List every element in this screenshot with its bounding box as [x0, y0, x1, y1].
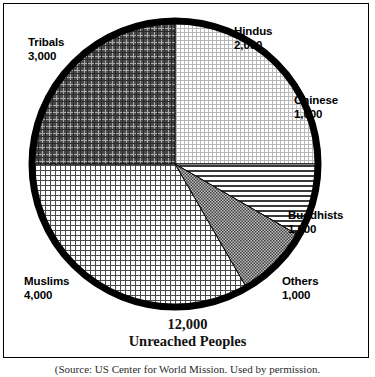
figure-source-caption: (Source: US Center for World Mission. Us… — [0, 363, 375, 377]
slice-label-chinese: Chinese 1,000 — [294, 94, 338, 121]
slice-label-chinese-value: 1,000 — [294, 108, 338, 122]
slice-label-buddhists-name: Buddhists — [288, 209, 343, 221]
slice-label-tribals: Tribals 3,000 — [28, 36, 64, 63]
slice-label-chinese-name: Chinese — [294, 94, 338, 106]
slice-label-buddhists: Buddhists 1,000 — [288, 209, 343, 236]
chart-title: Unreached Peoples — [0, 333, 375, 350]
slice-label-buddhists-value: 1,000 — [288, 223, 343, 237]
slice-label-muslims-value: 4,000 — [24, 289, 69, 303]
slice-label-hindus: Hindus 2,000 — [234, 25, 272, 52]
slice-label-others-value: 1,000 — [282, 289, 318, 303]
pie-chart-figure: Hindus 2,000 Chinese 1,000 Buddhists 1,0… — [0, 0, 375, 377]
slice-label-hindus-value: 2,000 — [234, 39, 272, 53]
slice-label-muslims-name: Muslims — [24, 275, 69, 287]
slice-label-tribals-value: 3,000 — [28, 50, 64, 64]
slice-label-tribals-name: Tribals — [28, 36, 64, 48]
slice-label-hindus-name: Hindus — [234, 25, 272, 37]
chart-total: 12,000 — [0, 316, 375, 333]
slice-label-muslims: Muslims 4,000 — [24, 275, 69, 302]
slice-label-others-name: Others — [282, 275, 318, 287]
slice-label-others: Others 1,000 — [282, 275, 318, 302]
